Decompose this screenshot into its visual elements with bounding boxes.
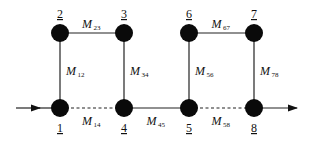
node-label-5: 5 [186,121,192,135]
node-label-2: 2 [57,7,63,21]
node-2 [51,24,69,42]
node-label-6: 6 [186,7,192,21]
node-label-7: 7 [251,7,257,21]
diagram-canvas: M12M23M34M14M45M56M67M78M5812345678 [0,0,316,146]
edge-label-M78: M78 [259,64,279,79]
edge-label-M45: M45 [146,114,166,129]
node-label-1: 1 [57,121,63,135]
edges-layer [60,33,254,108]
edge-label-M23: M23 [81,17,101,32]
node-1 [51,99,69,117]
edge-label-M56: M56 [194,64,214,79]
edge-label-M67: M67 [211,17,231,32]
node-label-3: 3 [121,7,127,21]
graph-svg: M12M23M34M14M45M56M67M78M5812345678 [0,0,316,146]
edge-label-M14: M14 [81,114,101,129]
node-7 [245,24,263,42]
node-8 [245,99,263,117]
node-4 [115,99,133,117]
edge-label-M12: M12 [65,64,85,79]
node-3 [115,24,133,42]
edge-label-M58: M58 [211,114,231,129]
edge-label-M34: M34 [129,64,149,79]
node-5 [180,99,198,117]
node-label-4: 4 [121,121,127,135]
labels-layer: M12M23M34M14M45M56M67M78M5812345678 [57,7,279,135]
node-label-8: 8 [251,121,257,135]
node-6 [180,24,198,42]
